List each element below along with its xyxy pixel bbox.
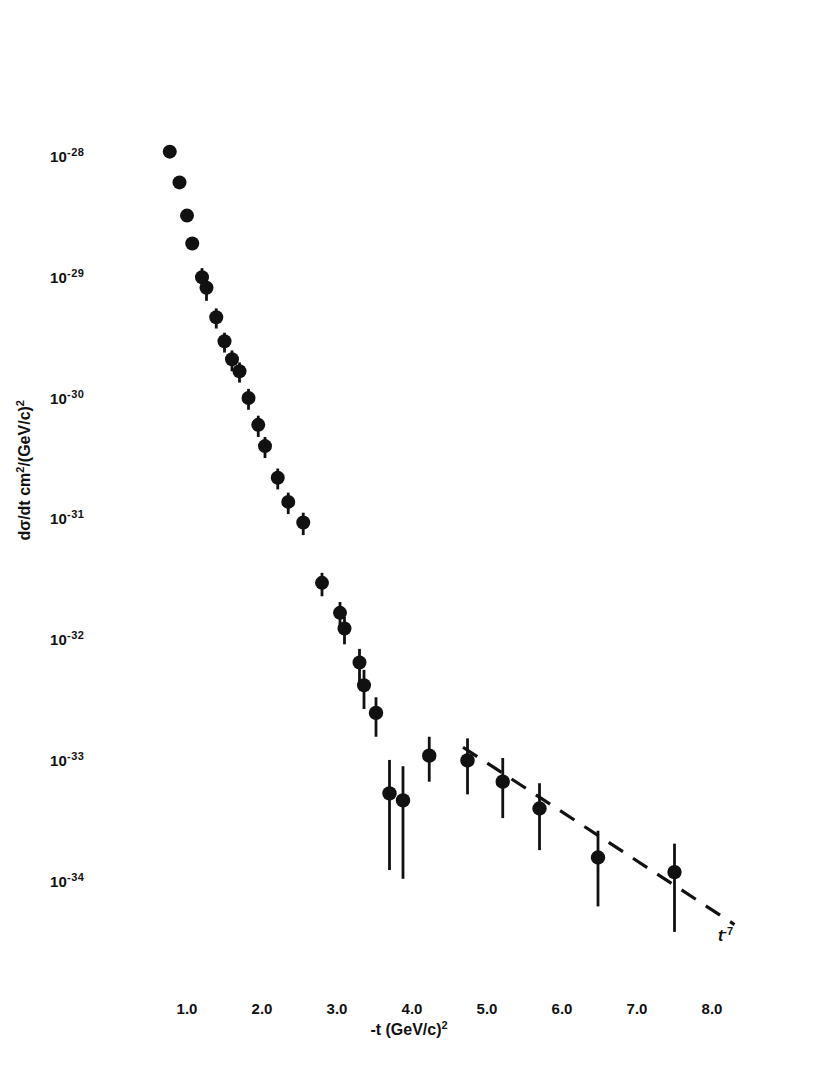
y-tick-label: 10-32 [50,629,85,648]
y-tick-mantissa: 10 [50,390,67,407]
y-tick-exponent: -33 [67,750,84,762]
y-tick-exponent: -30 [67,388,84,400]
y-tick-mantissa: 10 [50,873,67,890]
data-point [369,706,383,720]
data-point [218,334,232,348]
data-point [209,310,223,324]
y-tick-exponent: -29 [67,267,84,279]
y-tick-mantissa: 10 [50,269,67,286]
data-point [460,753,474,767]
x-tick-label: 1.0 [177,1000,198,1017]
data-point [225,352,239,366]
x-tick-label: 8.0 [702,1000,723,1017]
data-point [281,495,295,509]
x-tick-label: 4.0 [402,1000,423,1017]
power-law-label-exponent: -7 [723,925,733,937]
x-tick-label: 6.0 [552,1000,573,1017]
x-axis-title-exponent: 2 [442,1019,448,1031]
y-tick-label: 10-28 [50,146,85,165]
data-point [296,515,310,529]
data-point [258,439,272,453]
data-point [357,678,371,692]
y-tick-mantissa: 10 [50,752,67,769]
y-axis-title: dσ/dt cm2/(GeV/c)2 [14,400,34,541]
data-point [233,364,247,378]
data-point [180,209,194,223]
y-tick-label: 10-31 [50,508,85,527]
data-point [333,606,347,620]
data-point [251,418,265,432]
error-bars [202,268,675,932]
x-tick-label: 3.0 [327,1000,348,1017]
data-point [396,793,410,807]
x-axis-title: -t (GeV/c)2 [370,1019,447,1039]
x-axis-title-main: -t (GeV/c) [370,1021,441,1038]
y-axis-title-mid: /(GeV/c) [16,406,33,466]
data-point [382,786,396,800]
data-point [422,748,436,762]
y-tick-label: 10-30 [50,388,85,407]
y-axis-title-exponent-1: 2 [14,467,26,473]
power-law-label: t-7 [718,925,733,945]
data-point [353,655,367,669]
data-point [163,145,177,159]
y-tick-label: 10-29 [50,267,85,286]
data-point [591,850,605,864]
data-point [315,576,329,590]
data-point [667,865,681,879]
y-tick-mantissa: 10 [50,148,67,165]
y-tick-mantissa: 10 [50,631,67,648]
x-tick-label: 2.0 [252,1000,273,1017]
y-tick-exponent: -28 [67,146,84,158]
y-tick-exponent: -31 [67,508,84,520]
axis-ticks [0,0,712,884]
x-tick-label: 7.0 [627,1000,648,1017]
y-tick-label: 10-34 [50,871,85,890]
x-tick-label: 5.0 [477,1000,498,1017]
data-point [271,471,285,485]
data-point [173,175,187,189]
data-point [185,236,199,250]
data-point-markers [163,145,682,880]
data-point [200,281,214,295]
y-tick-label: 10-33 [50,750,85,769]
cross-section-plot [0,0,818,1077]
y-axis-title-main: dσ/dt cm [16,473,33,541]
y-axis-title-exponent-2: 2 [14,400,26,406]
data-point [496,775,510,789]
y-tick-exponent: -32 [67,629,84,641]
y-tick-exponent: -34 [67,871,84,883]
data-point [532,801,546,815]
figure-canvas: 10-2810-2910-3010-3110-3210-3310-34 1.02… [0,0,818,1077]
data-point [242,391,256,405]
data-point [338,621,352,635]
y-tick-mantissa: 10 [50,510,67,527]
